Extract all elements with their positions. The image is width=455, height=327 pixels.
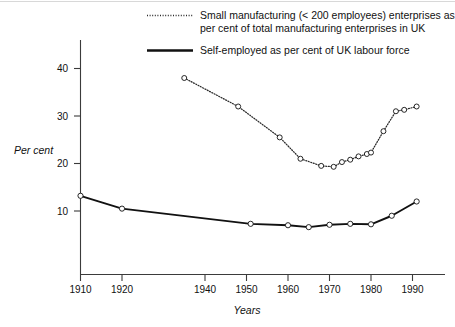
line-chart: Small manufacturing (< 200 employees) en… — [0, 0, 455, 327]
series-layer — [78, 76, 419, 230]
legend-label-small-manufacturing-line2: per cent of total manufacturing enterpri… — [200, 22, 425, 34]
data-point-marker — [381, 129, 386, 134]
data-point-marker — [306, 225, 311, 230]
data-point-marker — [356, 154, 361, 159]
x-tick-label-1980: 1980 — [360, 284, 383, 295]
x-tick-label-1960: 1960 — [277, 284, 300, 295]
data-point-marker — [248, 221, 253, 226]
data-point-marker — [236, 104, 241, 109]
data-point-marker — [319, 163, 324, 168]
data-point-marker — [277, 135, 282, 140]
data-point-marker — [348, 221, 353, 226]
data-point-marker — [393, 109, 398, 114]
data-point-marker — [389, 213, 394, 218]
data-point-marker — [402, 107, 407, 112]
data-point-marker — [298, 156, 303, 161]
x-tick-label-1950: 1950 — [235, 284, 258, 295]
data-point-marker — [285, 223, 290, 228]
x-tick-label-1940: 1940 — [194, 284, 217, 295]
data-point-marker — [348, 157, 353, 162]
data-point-marker — [182, 76, 187, 81]
chart-figure: Small manufacturing (< 200 employees) en… — [0, 0, 455, 327]
x-tick-label-1920: 1920 — [111, 284, 134, 295]
y-tick-label-10: 10 — [57, 206, 69, 217]
y-tick-label-30: 30 — [57, 111, 69, 122]
x-tick-label-1990: 1990 — [401, 284, 424, 295]
data-point-marker — [119, 206, 124, 211]
data-point-marker — [369, 150, 374, 155]
axes: 40 30 20 10 1910 1920 1940 1950 1960 197… — [14, 40, 445, 316]
x-tick-label-1910: 1910 — [69, 284, 92, 295]
data-point-marker — [78, 193, 83, 198]
y-tick-label-40: 40 — [57, 63, 69, 74]
series-line-small-manufacturing — [184, 78, 416, 167]
data-point-marker — [368, 222, 373, 227]
y-axis-title: Per cent — [14, 144, 54, 156]
data-point-marker — [414, 104, 419, 109]
y-tick-label-20: 20 — [57, 158, 69, 169]
legend-label-self-employed: Self-employed as per cent of UK labour f… — [200, 44, 410, 56]
legend-label-small-manufacturing-line1: Small manufacturing (< 200 employees) en… — [200, 9, 455, 21]
data-point-marker — [331, 164, 336, 169]
legend: Small manufacturing (< 200 employees) en… — [147, 9, 455, 56]
x-axis-title: Years — [234, 304, 262, 316]
x-tick-label-1970: 1970 — [318, 284, 341, 295]
data-point-marker — [339, 160, 344, 165]
data-point-marker — [327, 222, 332, 227]
data-point-marker — [414, 199, 419, 204]
